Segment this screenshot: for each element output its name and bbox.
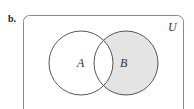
set-a-label: A (76, 56, 85, 70)
venn-diagram: A B U (0, 0, 194, 109)
set-b-label: B (120, 56, 128, 70)
universe-label: U (168, 20, 178, 34)
